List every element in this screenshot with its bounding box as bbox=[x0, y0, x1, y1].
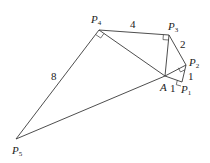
vertex-label-P2: P2 bbox=[188, 56, 200, 70]
edge-label-P2-P3: 2 bbox=[180, 38, 186, 50]
vertex-label-P4: P4 bbox=[90, 13, 102, 27]
spiral-triangle-diagram: P4 P3 P2 P1 A P5 4 2 1 1 8 bbox=[0, 0, 210, 163]
vertex-label-P1: P1 bbox=[180, 83, 192, 97]
right-angle-marker-P4 bbox=[96, 34, 104, 39]
spoke-A-P4 bbox=[99, 30, 165, 76]
edge-label-P3-P4: 4 bbox=[130, 18, 136, 30]
vertex-label-P5: P5 bbox=[11, 144, 23, 158]
spoke-A-P3 bbox=[165, 35, 169, 76]
edge-P3-P4 bbox=[99, 30, 169, 35]
vertex-label-P3: P3 bbox=[167, 20, 179, 34]
edge-P4-P5 bbox=[16, 30, 99, 139]
edge-label-A-P1: 1 bbox=[170, 82, 176, 94]
right-angle-marker-P3 bbox=[163, 35, 169, 40]
edge-label-P1-P2: 1 bbox=[188, 70, 194, 82]
edge-P1-P2 bbox=[182, 65, 186, 82]
vertex-label-A: A bbox=[159, 81, 167, 93]
spoke-A-P5 bbox=[16, 76, 165, 139]
edge-label-P4-P5: 8 bbox=[51, 70, 57, 82]
